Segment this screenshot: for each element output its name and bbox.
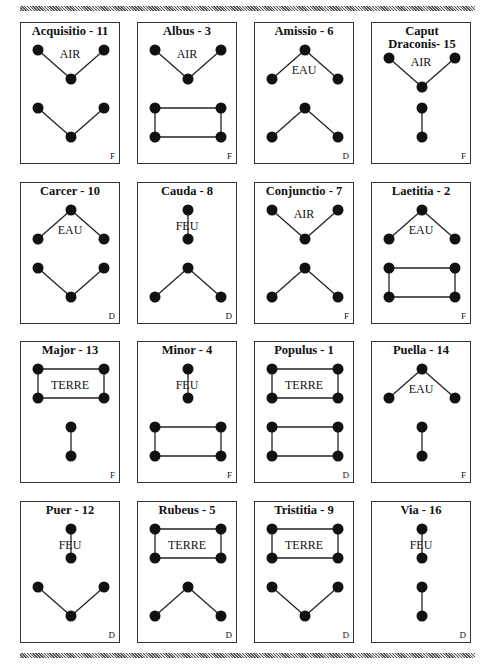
polarity-badge: D (109, 311, 116, 321)
element-label: FEU (372, 538, 470, 553)
point-dot (33, 103, 44, 114)
point-dot (99, 582, 110, 593)
element-label: EAU (21, 223, 119, 238)
point-dot (150, 132, 161, 143)
point-dot (300, 234, 311, 245)
figure-diagram (138, 23, 238, 165)
point-dot (183, 582, 194, 593)
point-dot (417, 103, 428, 114)
connector-line (155, 587, 188, 616)
point-dot (300, 103, 311, 114)
top-divider (20, 6, 475, 11)
figure-title: Amissio - 6 (255, 25, 353, 38)
figure-title: Tristitia - 9 (255, 504, 353, 517)
figure-card: Caput Draconis- 15AIRF (371, 22, 471, 164)
figure-title: Rubeus - 5 (138, 504, 236, 517)
figure-diagram (138, 502, 238, 644)
figure-diagram (21, 342, 121, 484)
element-label: TERRE (138, 538, 236, 553)
figure-card: Major - 13TERREF (20, 341, 120, 483)
point-dot (183, 364, 194, 375)
element-label: TERRE (255, 378, 353, 393)
figure-card: Conjunctio - 7AIRF (254, 182, 354, 324)
element-label: EAU (372, 382, 470, 397)
point-dot (333, 451, 344, 462)
connector-line (272, 587, 305, 616)
connector-line (71, 587, 104, 616)
point-dot (66, 205, 77, 216)
point-dot (417, 132, 428, 143)
figure-card: Tristitia - 9TERRED (254, 501, 354, 643)
point-dot (150, 451, 161, 462)
point-dot (300, 611, 311, 622)
point-dot (216, 103, 227, 114)
point-dot (216, 422, 227, 433)
point-dot (150, 103, 161, 114)
figure-diagram (138, 342, 238, 484)
point-dot (267, 524, 278, 535)
point-dot (66, 292, 77, 303)
polarity-badge: D (109, 630, 116, 640)
connector-line (38, 268, 71, 297)
figure-title: Puer - 12 (21, 504, 119, 517)
point-dot (300, 45, 311, 56)
point-dot (216, 553, 227, 564)
figure-diagram (255, 342, 355, 484)
point-dot (66, 611, 77, 622)
point-dot (66, 422, 77, 433)
point-dot (267, 422, 278, 433)
element-label: FEU (138, 378, 236, 393)
connector-line (38, 108, 71, 137)
point-dot (183, 393, 194, 404)
point-dot (417, 553, 428, 564)
point-dot (150, 292, 161, 303)
figure-diagram (255, 502, 355, 644)
point-dot (417, 364, 428, 375)
point-dot (183, 74, 194, 85)
figure-title: Laetitia - 2 (372, 185, 470, 198)
figure-card: Puer - 12FEUD (20, 501, 120, 643)
point-dot (450, 292, 461, 303)
figure-diagram (255, 183, 355, 325)
connector-line (272, 268, 305, 297)
point-dot (150, 524, 161, 535)
polarity-badge: D (343, 470, 350, 480)
figure-title: Cauda - 8 (138, 185, 236, 198)
point-dot (66, 74, 77, 85)
figure-diagram (21, 502, 121, 644)
point-dot (216, 292, 227, 303)
figure-diagram (255, 23, 355, 165)
element-label: FEU (21, 538, 119, 553)
point-dot (99, 263, 110, 274)
point-dot (333, 582, 344, 593)
point-dot (99, 393, 110, 404)
point-dot (150, 611, 161, 622)
figure-diagram (372, 183, 472, 325)
figure-card: Via - 16FEUD (371, 501, 471, 643)
element-label: EAU (372, 223, 470, 238)
point-dot (216, 132, 227, 143)
figure-diagram (372, 342, 472, 484)
point-dot (99, 103, 110, 114)
point-dot (33, 393, 44, 404)
point-dot (384, 292, 395, 303)
point-dot (267, 451, 278, 462)
element-label: TERRE (21, 378, 119, 393)
point-dot (333, 553, 344, 564)
point-dot (267, 582, 278, 593)
polarity-badge: F (227, 151, 232, 161)
point-dot (417, 524, 428, 535)
point-dot (216, 451, 227, 462)
point-dot (333, 524, 344, 535)
polarity-badge: F (227, 470, 232, 480)
element-label: EAU (255, 63, 353, 78)
point-dot (66, 132, 77, 143)
point-dot (183, 263, 194, 274)
point-dot (216, 611, 227, 622)
figure-diagram (21, 23, 121, 165)
point-dot (150, 553, 161, 564)
point-dot (267, 553, 278, 564)
connector-line (305, 587, 338, 616)
figure-card: Rubeus - 5TERRED (137, 501, 237, 643)
figure-card: Puella - 14EAUF (371, 341, 471, 483)
